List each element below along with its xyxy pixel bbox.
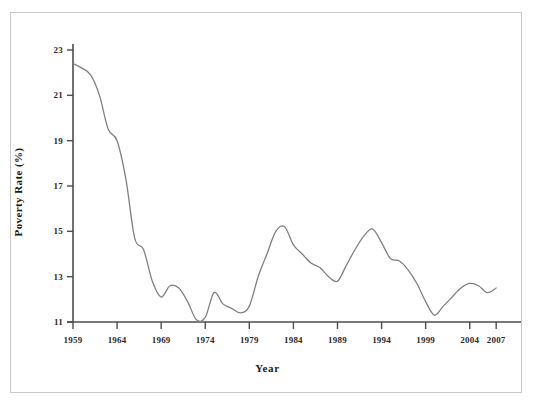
x-tick-label: 1984 [284, 335, 303, 345]
x-tick-label: 1979 [240, 335, 259, 345]
y-tick-label: 19 [0, 136, 63, 146]
x-tick-label: 2004 [460, 335, 479, 345]
y-tick-label: 23 [0, 45, 63, 55]
data-line-group [73, 64, 496, 322]
y-tick-label: 15 [0, 226, 63, 236]
x-tick-label: 1974 [196, 335, 215, 345]
x-tick-label: 1999 [416, 335, 435, 345]
y-tick-label: 17 [0, 181, 63, 191]
y-axis-title: Poverty Rate (%) [12, 112, 24, 272]
x-tick-label: 1964 [108, 335, 127, 345]
x-tick-label: 1969 [152, 335, 171, 345]
x-tick-label: 1989 [328, 335, 347, 345]
y-tick-label: 21 [0, 90, 63, 100]
x-tick-label: 1994 [372, 335, 391, 345]
tick-marks [67, 50, 496, 329]
axis-lines [67, 44, 521, 322]
x-axis-title: Year [0, 362, 535, 374]
y-tick-label: 11 [0, 317, 63, 327]
x-tick-label: 1959 [64, 335, 83, 345]
data-line-poverty-rate [73, 64, 496, 322]
y-tick-label: 13 [0, 272, 63, 282]
chart-figure: 11131517192123 1959196419691974197919841… [0, 0, 535, 407]
plot-area [0, 0, 535, 407]
x-tick-label: 2007 [487, 335, 506, 345]
